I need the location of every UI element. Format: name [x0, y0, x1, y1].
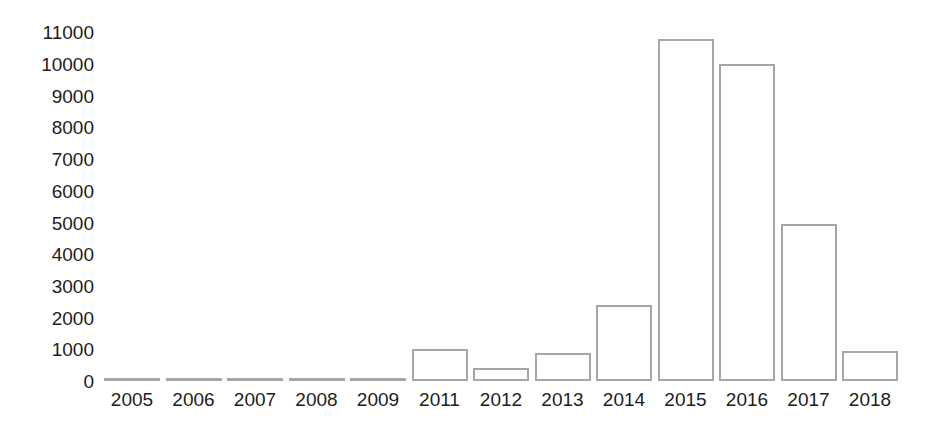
y-axis-tick-label: 11000 — [43, 23, 94, 42]
y-axis-tick-label: 6000 — [52, 181, 94, 200]
bar — [227, 378, 283, 381]
x-axis-tick-label: 2013 — [535, 390, 591, 409]
bar — [166, 378, 222, 381]
bar — [412, 349, 468, 381]
y-axis-tick-label: 10000 — [41, 55, 94, 74]
x-axis-tick-label: 2012 — [473, 390, 529, 409]
x-axis-tick-label: 2017 — [781, 390, 837, 409]
bar — [104, 378, 160, 381]
y-axis-tick-label: 9000 — [52, 86, 94, 105]
y-axis-tick-label: 0 — [83, 372, 94, 391]
bar — [719, 64, 775, 381]
y-axis: 0100020003000400050006000700080009000100… — [0, 0, 100, 431]
x-axis-tick-label: 2016 — [719, 390, 775, 409]
bar — [596, 305, 652, 381]
y-axis-tick-label: 4000 — [52, 245, 94, 264]
x-axis-tick-label: 2009 — [350, 390, 406, 409]
y-axis-tick-label: 8000 — [52, 118, 94, 137]
bar — [535, 353, 591, 381]
x-axis-tick-label: 2011 — [412, 390, 468, 409]
x-axis-tick-label: 2006 — [166, 390, 222, 409]
y-axis-tick-label: 7000 — [52, 150, 94, 169]
y-axis-tick-label: 1000 — [52, 340, 94, 359]
x-axis-tick-label: 2008 — [289, 390, 345, 409]
bar — [473, 368, 529, 381]
y-axis-tick-label: 2000 — [52, 308, 94, 327]
x-axis-tick-label: 2007 — [227, 390, 283, 409]
x-axis-tick-label: 2005 — [104, 390, 160, 409]
bar — [842, 351, 898, 381]
y-axis-tick-label: 3000 — [52, 276, 94, 295]
x-axis-tick-label: 2015 — [658, 390, 714, 409]
bar-chart: 0100020003000400050006000700080009000100… — [0, 0, 937, 431]
x-axis-tick-label: 2014 — [596, 390, 652, 409]
plot-area: 2005200620072008200920112012201320142015… — [101, 0, 905, 431]
bar — [350, 378, 406, 381]
bar — [658, 39, 714, 381]
bar — [781, 224, 837, 381]
bar — [289, 378, 345, 381]
y-axis-tick-label: 5000 — [52, 213, 94, 232]
x-axis-tick-label: 2018 — [842, 390, 898, 409]
